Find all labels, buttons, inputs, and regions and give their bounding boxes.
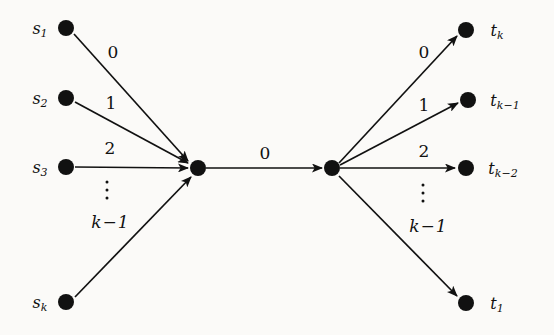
node-label-tk: tk	[490, 23, 503, 39]
node-label-s1: s1	[32, 21, 47, 37]
edge-label-t1: k−1	[409, 218, 446, 235]
node-s1	[58, 20, 74, 36]
edge-s3-hub-left	[75, 167, 188, 168]
node-s3	[58, 159, 74, 175]
vertical-dots-left	[106, 181, 109, 200]
node-label-tk-2: tk−2	[488, 161, 517, 177]
edge-s1-hub-left	[74, 34, 188, 161]
edge-label-tk-2: 2	[419, 143, 430, 160]
edge-hub-right-tk1	[340, 103, 458, 165]
edge-label-s1: 0	[108, 44, 119, 61]
edge-label-bridge: 0	[260, 145, 271, 162]
edge-hub-right-t1	[339, 176, 457, 296]
edge-sk-hub-left	[75, 177, 191, 297]
node-hub-right	[324, 160, 340, 176]
edge-label-s2: 1	[106, 95, 117, 112]
node-s2	[58, 90, 74, 106]
node-label-t1: t1	[490, 296, 503, 312]
edge-s2-hub-left	[75, 102, 188, 163]
edge-hub-right-tk	[339, 36, 457, 163]
vertical-dots-right	[422, 184, 425, 203]
node-sk	[58, 294, 74, 310]
edge-label-sk: k−1	[91, 214, 128, 231]
node-label-s3: s3	[32, 160, 47, 176]
node-label-sk: sk	[33, 295, 48, 311]
node-label-tk-1: tk−1	[490, 93, 519, 109]
node-tk	[458, 22, 474, 38]
edge-label-tk-1: 1	[419, 97, 430, 114]
node-tk-2	[458, 160, 474, 176]
node-tk-1	[460, 92, 476, 108]
edge-label-s3: 2	[105, 140, 116, 157]
edge-label-tk: 0	[419, 44, 430, 61]
node-label-s2: s2	[32, 91, 47, 107]
node-hub-left	[190, 160, 206, 176]
node-t1	[458, 295, 474, 311]
graph-diagram: s1 s2 s3 sk tk tk−1 tk−2 t1 0 1 2 k−1 0 …	[0, 0, 554, 335]
